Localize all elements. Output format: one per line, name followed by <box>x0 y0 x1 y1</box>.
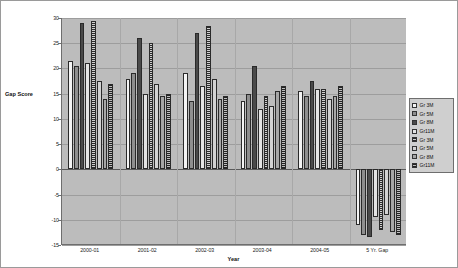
bar <box>258 109 263 170</box>
legend-swatch-icon <box>412 154 417 159</box>
legend-item[interactable]: Gr 8M <box>412 118 451 127</box>
x-tick-label: 5 Yr. Gap <box>349 247 407 254</box>
bar <box>143 94 148 170</box>
bar <box>149 43 154 169</box>
legend-item-label: Gr 8M <box>420 119 434 125</box>
legend-swatch-icon <box>412 163 417 168</box>
bar <box>367 169 372 237</box>
x-axis-title: Year <box>61 256 406 262</box>
bar <box>373 169 378 217</box>
category-separator <box>177 18 178 244</box>
bar <box>126 79 131 170</box>
bar <box>321 89 326 170</box>
bar <box>154 84 159 170</box>
bar <box>310 81 315 169</box>
legend-swatch-icon <box>412 137 417 142</box>
legend-item-label: Gr11M <box>420 128 435 134</box>
x-tick-label: 2001-02 <box>119 247 177 254</box>
y-tick-label: 30 <box>33 15 59 21</box>
category-separator <box>120 18 121 244</box>
bar <box>68 61 73 169</box>
legend-item-label: Gr 8M <box>420 154 434 160</box>
bar <box>195 33 200 169</box>
bar <box>390 169 395 232</box>
y-tick-label: -10 <box>33 217 59 223</box>
legend-item-label: Gr 5M <box>420 111 434 117</box>
x-tick-label: 2004-05 <box>291 247 349 254</box>
legend-item[interactable]: Gr 3M <box>412 135 451 144</box>
bar <box>200 86 205 169</box>
y-tick-label: -5 <box>33 192 59 198</box>
legend-item[interactable]: Gr 5M <box>412 110 451 119</box>
bar <box>103 99 108 170</box>
chart-frame: Gap Score 302520151050-5-10-15 2000-0120… <box>0 0 458 268</box>
bar <box>166 94 171 170</box>
bar <box>281 86 286 169</box>
bar <box>212 79 217 170</box>
bar <box>361 169 366 235</box>
x-tick-label: 2003-04 <box>234 247 292 254</box>
y-tick-label: -15 <box>33 242 59 248</box>
legend-item-label: Gr 3M <box>420 137 434 143</box>
legend-swatch-icon <box>412 120 417 125</box>
legend-item[interactable]: Gr 8M <box>412 153 451 162</box>
bar <box>396 169 401 235</box>
bar <box>246 94 251 170</box>
y-tick-label: 25 <box>33 40 59 46</box>
legend-item-label: Gr11M <box>420 162 435 168</box>
y-tick-mark <box>58 245 61 246</box>
bar <box>269 106 274 169</box>
bar <box>356 169 361 224</box>
bar <box>91 21 96 170</box>
bar <box>384 169 389 214</box>
bar <box>97 81 102 169</box>
category-separator <box>235 18 236 244</box>
chart-legend: Gr 3MGr 5MGr 8MGr11MGr 3MGr 5MGr 8MGr11M <box>409 98 454 173</box>
bar <box>264 96 269 169</box>
bar <box>327 99 332 170</box>
bar <box>223 96 228 169</box>
y-tick-label: 5 <box>33 141 59 147</box>
bar <box>189 101 194 169</box>
bar <box>131 73 136 169</box>
legend-item[interactable]: Gr11M <box>412 161 451 170</box>
bar <box>80 23 85 169</box>
bar <box>298 91 303 169</box>
y-tick-label: 0 <box>33 166 59 172</box>
legend-swatch-icon <box>412 111 417 116</box>
plot-area <box>61 18 406 245</box>
category-separator <box>292 18 293 244</box>
bar <box>108 84 113 170</box>
legend-item[interactable]: Gr11M <box>412 127 451 136</box>
y-axis-tick-labels: 302520151050-5-10-15 <box>29 1 59 268</box>
bar <box>160 96 165 169</box>
bar <box>252 66 257 169</box>
bar <box>137 38 142 169</box>
bar <box>206 26 211 170</box>
bar <box>304 96 309 169</box>
bar <box>85 63 90 169</box>
x-tick-label: 2002-03 <box>176 247 234 254</box>
legend-swatch-icon <box>412 103 417 108</box>
bar <box>315 89 320 170</box>
y-tick-label: 15 <box>33 91 59 97</box>
bar <box>338 86 343 169</box>
y-tick-label: 10 <box>33 116 59 122</box>
legend-swatch-icon <box>412 146 417 151</box>
legend-item-label: Gr 5M <box>420 145 434 151</box>
legend-item[interactable]: Gr 3M <box>412 101 451 110</box>
x-tick-label: 2000-01 <box>61 247 119 254</box>
y-tick-label: 20 <box>33 65 59 71</box>
legend-item[interactable]: Gr 5M <box>412 144 451 153</box>
category-separator <box>350 18 351 244</box>
bar <box>74 66 79 169</box>
legend-swatch-icon <box>412 129 417 134</box>
bar <box>241 101 246 169</box>
gridline <box>62 245 406 246</box>
bar <box>379 169 384 230</box>
bar <box>333 96 338 169</box>
bar <box>218 99 223 170</box>
bar <box>275 91 280 169</box>
bar <box>183 73 188 169</box>
legend-item-label: Gr 3M <box>420 102 434 108</box>
